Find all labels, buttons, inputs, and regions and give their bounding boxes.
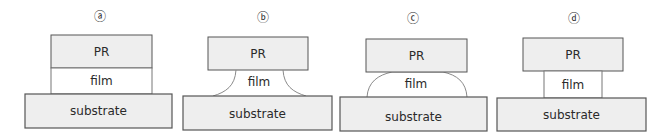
film-label: film [90, 74, 113, 88]
panel-d: ⓓ PR film substrate [497, 12, 646, 131]
pr-label: PR [250, 47, 266, 61]
panel-label-b: ⓑ [257, 11, 269, 25]
film-label: film [248, 75, 271, 89]
panel-label-c: ⓒ [407, 12, 419, 26]
panel-label-d: ⓓ [568, 12, 580, 26]
panel-label-a: ⓐ [94, 10, 106, 24]
substrate-label: substrate [543, 108, 600, 122]
panel-a: ⓐ PR film substrate [25, 10, 172, 128]
panel-c: ⓒ PR film substrate [340, 12, 487, 131]
etch-profile-diagram: ⓐ PR film substrate ⓑ PR film substrate … [0, 0, 665, 140]
film-sidewall-right [283, 70, 306, 96]
pr-label: PR [409, 49, 425, 63]
film-label: film [405, 77, 428, 91]
pr-label: PR [565, 48, 581, 62]
substrate-label: substrate [70, 104, 127, 118]
substrate-label: substrate [385, 110, 442, 124]
panel-b: ⓑ PR film substrate [183, 11, 332, 130]
film-sidewall-left [213, 70, 236, 96]
pr-label: PR [94, 45, 110, 59]
substrate-label: substrate [229, 107, 286, 121]
film-label: film [562, 78, 585, 92]
